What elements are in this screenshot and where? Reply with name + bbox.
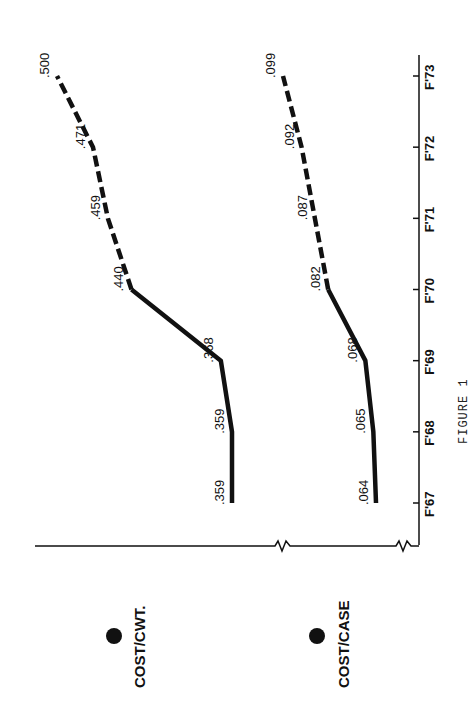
data-point-label: .359 (212, 480, 227, 505)
data-point-label: .092 (282, 124, 297, 149)
data-point-label: .065 (353, 409, 368, 434)
data-point-label: .459 (88, 195, 103, 220)
data-point-label: .471 (73, 124, 88, 149)
data-point-label: .099 (263, 53, 278, 78)
legend-item-cost-per-case: COST/CASE (309, 600, 352, 688)
solid-line-actual (328, 290, 376, 504)
tick-label: F'73 (422, 65, 437, 91)
data-point-label: .068 (345, 337, 360, 362)
legend-item-cost-per-cwt: COST/CWT. (106, 606, 148, 689)
data-point-label: .082 (308, 266, 323, 291)
tick-label: F'70 (422, 278, 437, 304)
legend: COST/CWT. COST/CASE (106, 600, 352, 688)
series-cost-per-case: .064.065.068.082.087.092.099 (263, 53, 376, 505)
dashed-line-projected (57, 76, 131, 290)
tick-label: F'67 (422, 492, 437, 518)
data-point-label: .500 (37, 53, 52, 78)
filled-circle-icon (309, 628, 325, 644)
data-point-label: .368 (201, 337, 216, 362)
data-point-label: .064 (356, 480, 371, 505)
figure-caption: FIGURE 1 (457, 378, 471, 444)
solid-line-actual (131, 290, 232, 504)
series-cost-per-cwt: .359.359.368.440.459.471.500 (37, 53, 232, 505)
data-point-label: .359 (212, 409, 227, 434)
data-point-label: .440 (111, 266, 126, 291)
category-ticks: F'67F'68F'69F'70F'71F'72F'73 (413, 65, 437, 518)
tick-label: F'68 (422, 420, 437, 446)
tick-label: F'71 (422, 207, 437, 233)
filled-circle-icon (106, 628, 122, 644)
tick-label: F'69 (422, 349, 437, 375)
legend-label-cost-per-case: COST/CASE (335, 600, 352, 688)
value-axis-with-breaks (35, 541, 419, 551)
tick-label: F'72 (422, 136, 437, 162)
dashed-line-projected (283, 76, 328, 290)
cost-trend-chart: F'67F'68F'69F'70F'71F'72F'73 .359.359.36… (0, 0, 472, 720)
legend-label-cost-per-cwt: COST/CWT. (131, 606, 148, 689)
data-point-label: .087 (295, 195, 310, 220)
